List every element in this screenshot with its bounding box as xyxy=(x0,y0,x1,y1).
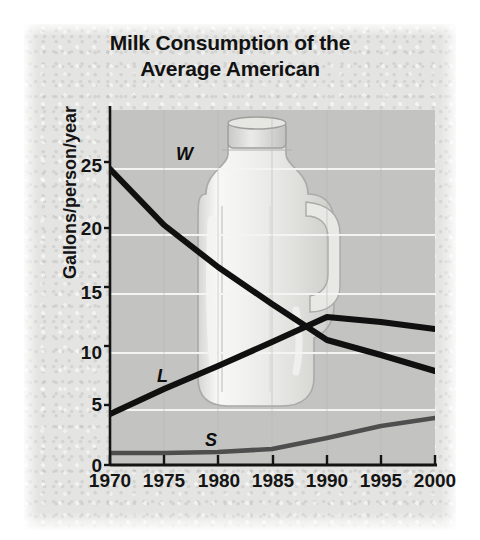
y-tick-label-25: 25 xyxy=(62,155,102,177)
y-tick-label-15: 15 xyxy=(62,282,102,304)
chart-title: Milk Consumption of the Average American xyxy=(40,30,420,81)
y-tick-label-10: 10 xyxy=(62,342,102,364)
chart-title-line-2: Average American xyxy=(40,56,420,82)
y-tick-label-20: 20 xyxy=(62,218,102,240)
axis-svg xyxy=(100,100,450,480)
chart-figure: Milk Consumption of the Average American… xyxy=(0,0,480,540)
y-tick-label-5: 5 xyxy=(62,394,102,416)
chart-title-line-1: Milk Consumption of the xyxy=(40,30,420,56)
y-axis-title: Gallons/person/year xyxy=(60,78,81,308)
